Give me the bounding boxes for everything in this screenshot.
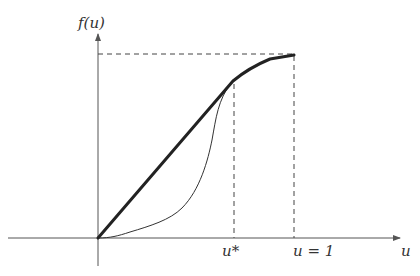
u-one-label: u = 1 [293, 242, 334, 260]
x-axis-label: u [401, 242, 411, 260]
y-axis-label: f(u) [77, 14, 105, 32]
thick-envelope-curve [98, 55, 294, 238]
u-star-label: u* [222, 242, 240, 260]
flux-diagram: f(u) u u* u = 1 [0, 0, 420, 276]
